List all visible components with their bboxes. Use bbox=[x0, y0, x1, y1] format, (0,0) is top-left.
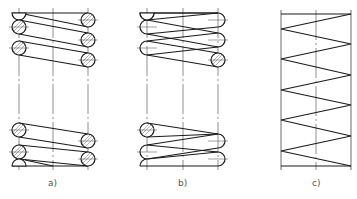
coil-outline bbox=[140, 13, 225, 166]
panel-b bbox=[137, 8, 228, 170]
panel-c bbox=[281, 10, 351, 170]
coil-lines bbox=[12, 13, 88, 166]
panel-a bbox=[9, 8, 98, 170]
panel-a-label: a) bbox=[48, 178, 57, 188]
spring-drawings bbox=[0, 0, 357, 199]
panel-c-label: c) bbox=[312, 178, 320, 188]
end-sections bbox=[137, 13, 228, 137]
panel-b-label: b) bbox=[178, 178, 187, 188]
